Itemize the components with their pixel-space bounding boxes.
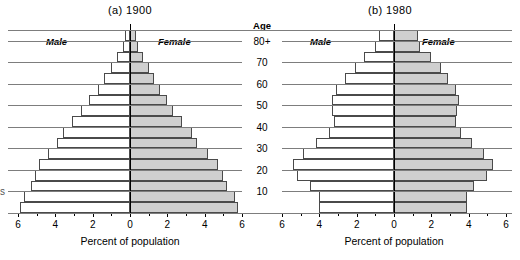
center-axis-1900 <box>130 24 131 213</box>
x-axis-tick-label: 2 <box>354 219 360 230</box>
male-bar <box>117 52 130 63</box>
age-gridline-left <box>8 170 242 171</box>
male-bar <box>89 95 130 106</box>
age-gridline-right <box>282 170 512 171</box>
female-bar <box>394 62 441 73</box>
female-bar <box>130 138 197 149</box>
male-bar <box>329 127 394 138</box>
female-bar <box>394 170 487 181</box>
female-bar <box>394 181 474 192</box>
age-gridline-left <box>8 41 242 42</box>
female-bar <box>130 105 173 116</box>
male-bar <box>31 181 130 192</box>
x-axis-tick-label: 6 <box>239 219 245 230</box>
x-axis-tick-label: 4 <box>202 219 208 230</box>
population-pyramid-figure: (a) 1900 Male Female Percent of populati… <box>0 0 520 260</box>
age-gridline-right <box>282 127 512 128</box>
panel-1980: (b) 1980 Male Female Percent of populati… <box>260 0 520 260</box>
female-bar <box>130 73 154 84</box>
x-axis-tick-label: 2 <box>90 219 96 230</box>
male-bar <box>72 116 130 127</box>
female-bar <box>130 148 208 159</box>
male-bar <box>310 181 394 192</box>
male-bar <box>375 41 394 52</box>
male-bar <box>104 73 130 84</box>
x-axis-tick-label: 4 <box>53 219 59 230</box>
age-gridline-right <box>282 105 512 106</box>
male-bar <box>123 41 130 52</box>
male-bar <box>332 95 394 106</box>
male-bar <box>35 170 130 181</box>
age-gridline-left <box>8 127 242 128</box>
male-bar <box>303 148 394 159</box>
age-gridline-left <box>8 62 242 63</box>
female-bar <box>394 202 467 213</box>
male-bar <box>39 159 130 170</box>
male-bar <box>57 138 130 149</box>
age-tick-label: 20 <box>254 164 269 175</box>
age-gridline-right <box>282 62 512 63</box>
top-rule <box>8 30 512 31</box>
female-bar <box>130 181 227 192</box>
age-gridline-right <box>282 41 512 42</box>
male-bar <box>379 30 394 41</box>
age-gridline-left <box>8 148 242 149</box>
center-axis-1980 <box>394 24 395 213</box>
male-bar <box>345 73 394 84</box>
x-axis-tick-label: 0 <box>391 219 397 230</box>
age-gridline-right <box>282 84 512 85</box>
male-bar <box>316 138 394 149</box>
female-bar <box>130 159 218 170</box>
female-bar <box>394 159 493 170</box>
female-bar <box>394 95 459 106</box>
x-axis-tick-label: 4 <box>317 219 323 230</box>
female-bar <box>394 138 472 149</box>
male-bar <box>63 127 130 138</box>
female-bar <box>394 52 431 63</box>
age-tick-label: 50 <box>254 100 269 111</box>
age-tick-label: 80+ <box>252 35 273 46</box>
female-bar <box>130 170 223 181</box>
x-axis-tick-label: 2 <box>165 219 171 230</box>
male-bar <box>334 116 394 127</box>
female-bar <box>130 95 167 106</box>
plot-area-1980: Male Female Percent of population 642024… <box>282 30 506 213</box>
male-bar <box>24 191 130 202</box>
male-bar <box>364 52 394 63</box>
female-bar <box>394 116 456 127</box>
female-bar <box>394 148 484 159</box>
age-gridline-left <box>8 84 242 85</box>
age-tick-label: 60 <box>254 78 269 89</box>
female-bar <box>394 191 467 202</box>
male-bar <box>319 191 394 202</box>
female-bar <box>394 73 448 84</box>
age-tick-label: 10 <box>254 186 269 197</box>
female-bar <box>130 52 143 63</box>
male-bar <box>111 62 130 73</box>
male-bar <box>98 84 130 95</box>
x-axis-title-1900: Percent of population <box>18 235 242 247</box>
male-bar <box>81 105 130 116</box>
panel-1900: (a) 1900 Male Female Percent of populati… <box>0 0 260 260</box>
x-axis-tick-label: 6 <box>279 219 285 230</box>
panel-title-1980: (b) 1980 <box>260 4 520 16</box>
age-gridline-left <box>8 191 242 192</box>
female-bar <box>130 202 238 213</box>
edge-artifact: s <box>0 186 5 197</box>
male-bar <box>319 202 394 213</box>
female-bar <box>394 127 461 138</box>
x-axis-tick-label: 6 <box>15 219 21 230</box>
female-bar <box>130 191 235 202</box>
age-gridline-right <box>282 148 512 149</box>
female-bar <box>394 84 456 95</box>
age-tick-label: 70 <box>254 57 269 68</box>
x-axis-title-1980: Percent of population <box>282 235 506 247</box>
x-axis-tick-label: 6 <box>503 219 509 230</box>
female-bar <box>130 62 149 73</box>
female-bar <box>394 41 420 52</box>
plot-area-1900: Male Female Percent of population 642024… <box>18 30 242 213</box>
female-bar <box>394 30 418 41</box>
male-bar <box>20 202 130 213</box>
female-bar <box>130 127 192 138</box>
female-bar <box>130 41 138 52</box>
